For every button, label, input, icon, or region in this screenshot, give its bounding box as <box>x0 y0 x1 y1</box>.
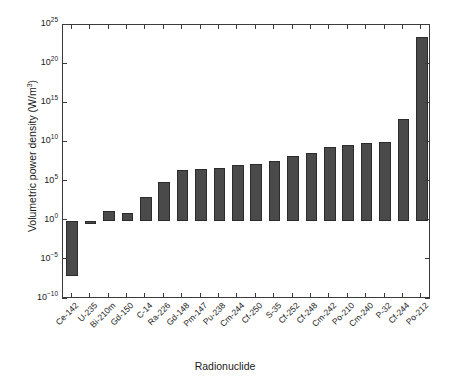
bar <box>158 182 169 221</box>
x-tick-mark-top <box>273 24 274 29</box>
y-tick-exponent: 20 <box>51 55 58 62</box>
x-tick-mark <box>328 293 329 298</box>
x-tick-mark <box>402 293 403 298</box>
chart-figure: 102510201015101010510010−510−10 Ce-142U-… <box>0 0 450 383</box>
x-tick-mark <box>292 293 293 298</box>
x-tick-mark <box>365 293 366 298</box>
y-tick-mantissa: 10 <box>41 57 51 67</box>
y-tick-label: 1020 <box>41 58 58 67</box>
bar <box>324 147 335 221</box>
y-axis-title: Volumetric power density (W/m3) <box>26 16 38 296</box>
x-tick-mark-top <box>181 24 182 29</box>
y-tick-label: 1010 <box>41 136 58 145</box>
y-axis-title-tail: ) <box>26 80 38 84</box>
x-tick-mark <box>273 293 274 298</box>
x-tick-mark-top <box>236 24 237 29</box>
y-tick-mark-right <box>425 24 430 25</box>
x-tick-mark <box>200 293 201 298</box>
y-tick-mark <box>62 258 67 259</box>
y-tick-mark <box>62 180 67 181</box>
y-tick-mark-right <box>425 258 430 259</box>
bar <box>379 142 390 220</box>
x-tick-mark-top <box>347 24 348 29</box>
x-tick-mark-top <box>144 24 145 29</box>
bar <box>361 143 372 221</box>
x-tick-mark <box>420 293 421 298</box>
x-tick-mark <box>218 293 219 298</box>
x-tick-mark <box>71 293 72 298</box>
bar <box>269 161 280 221</box>
y-tick-mark-right <box>425 141 430 142</box>
y-tick-mark <box>62 141 67 142</box>
y-tick-mantissa: 10 <box>44 175 54 185</box>
x-tick-mark-top <box>402 24 403 29</box>
x-tick-mark-top <box>328 24 329 29</box>
x-tick-mark <box>89 293 90 298</box>
x-tick-mark-top <box>310 24 311 29</box>
bar <box>342 145 353 221</box>
bar <box>122 213 133 221</box>
x-tick-mark <box>236 293 237 298</box>
y-tick-exponent: 25 <box>51 16 58 23</box>
y-tick-mark <box>62 24 67 25</box>
bar <box>398 119 409 221</box>
y-tick-mark-right <box>425 102 430 103</box>
x-tick-mark <box>163 293 164 298</box>
bar <box>66 221 77 276</box>
y-tick-exponent: −5 <box>51 251 58 258</box>
x-tick-mark <box>144 293 145 298</box>
x-tick-mark-top <box>255 24 256 29</box>
bar <box>195 169 206 221</box>
bar <box>287 156 298 221</box>
x-tick-mark <box>310 293 311 298</box>
bars-layer <box>63 25 429 297</box>
x-tick-mark-top <box>384 24 385 29</box>
y-tick-label: 1015 <box>41 97 58 106</box>
x-tick-mark-top <box>126 24 127 29</box>
bar <box>103 211 114 221</box>
bar <box>306 153 317 221</box>
y-tick-exponent: 5 <box>54 173 58 180</box>
y-tick-exponent: 10 <box>51 133 58 140</box>
y-tick-mark <box>62 102 67 103</box>
x-tick-mark <box>384 293 385 298</box>
x-tick-mark <box>347 293 348 298</box>
y-tick-exponent: −10 <box>47 290 58 297</box>
y-tick-mantissa: 10 <box>37 292 47 302</box>
y-tick-mantissa: 10 <box>41 18 51 28</box>
y-tick-label: 10−5 <box>41 254 58 263</box>
bar <box>232 165 243 220</box>
x-tick-mark-top <box>71 24 72 29</box>
y-tick-mark <box>62 298 67 299</box>
x-tick-mark-top <box>292 24 293 29</box>
y-tick-mantissa: 10 <box>41 253 51 263</box>
x-tick-mark-top <box>200 24 201 29</box>
x-axis-title: Radionuclide <box>0 360 450 372</box>
x-tick-mark-top <box>163 24 164 29</box>
y-tick-label: 10−10 <box>37 293 58 302</box>
y-tick-mark <box>62 219 67 220</box>
bar <box>250 164 261 221</box>
y-tick-exponent: 0 <box>54 212 58 219</box>
y-tick-mark-right <box>425 180 430 181</box>
x-tick-mark-top <box>365 24 366 29</box>
y-tick-mantissa: 10 <box>41 96 51 106</box>
bar <box>214 168 225 221</box>
y-tick-mark-right <box>425 219 430 220</box>
y-tick-mark-right <box>425 63 430 64</box>
x-tick-mark-top <box>89 24 90 29</box>
bar <box>416 37 427 221</box>
x-tick-mark-top <box>108 24 109 29</box>
bar <box>177 170 188 221</box>
y-tick-label: 1025 <box>41 19 58 28</box>
y-tick-mantissa: 10 <box>41 135 51 145</box>
y-axis-title-text: Volumetric power density (W/m <box>26 87 38 232</box>
y-tick-exponent: 15 <box>51 94 58 101</box>
bar <box>85 221 96 224</box>
y-axis-title-sup: 3 <box>26 83 33 87</box>
y-tick-label: 105 <box>44 176 58 185</box>
y-tick-mark <box>62 63 67 64</box>
y-tick-mantissa: 10 <box>44 214 54 224</box>
x-tick-mark <box>255 293 256 298</box>
x-tick-mark <box>108 293 109 298</box>
